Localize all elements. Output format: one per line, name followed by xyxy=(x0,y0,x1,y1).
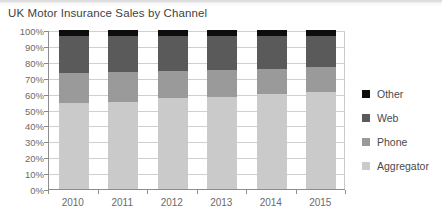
x-axis-label-2011: 2011 xyxy=(99,197,145,208)
y-axis-label: 10% xyxy=(0,169,44,180)
x-axis-tick xyxy=(98,190,99,194)
gridline xyxy=(49,95,345,96)
bar-segment-phone-2013[interactable] xyxy=(207,70,237,97)
legend-label: Web xyxy=(377,112,398,124)
bar-segment-other-2015[interactable] xyxy=(306,30,336,36)
legend-item-aggregator[interactable]: Aggregator xyxy=(362,154,429,178)
bar-2012[interactable] xyxy=(158,30,188,189)
legend-swatch-web-icon xyxy=(362,114,370,122)
legend-label: Other xyxy=(377,88,403,100)
bar-segment-aggregator-2013[interactable] xyxy=(207,97,237,189)
bar-2010[interactable] xyxy=(59,30,89,189)
bar-segment-other-2013[interactable] xyxy=(207,30,237,36)
bar-segment-other-2012[interactable] xyxy=(158,30,188,36)
x-axis-tick xyxy=(246,190,247,194)
bar-2014[interactable] xyxy=(257,30,287,189)
bar-segment-aggregator-2011[interactable] xyxy=(108,102,138,189)
y-axis-label: 100% xyxy=(0,26,44,37)
bar-segment-phone-2012[interactable] xyxy=(158,71,188,99)
gridline xyxy=(49,174,345,175)
y-axis-label: 60% xyxy=(0,89,44,100)
bar-segment-web-2012[interactable] xyxy=(158,36,188,70)
bar-segment-phone-2010[interactable] xyxy=(59,73,89,103)
gridline xyxy=(49,31,345,32)
legend-swatch-aggregator-icon xyxy=(362,162,370,170)
bar-2013[interactable] xyxy=(207,30,237,189)
legend-swatch-other-icon xyxy=(362,90,370,98)
x-axis-tick xyxy=(345,190,346,194)
y-axis-label: 50% xyxy=(0,105,44,116)
x-axis-tick xyxy=(147,190,148,194)
bar-segment-web-2011[interactable] xyxy=(108,36,138,72)
bar-segment-web-2010[interactable] xyxy=(59,36,89,73)
gridline xyxy=(49,47,345,48)
bar-segment-web-2013[interactable] xyxy=(207,36,237,69)
bar-segment-other-2011[interactable] xyxy=(108,30,138,36)
x-axis-label-2013: 2013 xyxy=(198,197,244,208)
legend-item-web[interactable]: Web xyxy=(362,106,429,130)
legend-item-phone[interactable]: Phone xyxy=(362,130,429,154)
bar-segment-aggregator-2010[interactable] xyxy=(59,103,89,189)
bar-segment-aggregator-2014[interactable] xyxy=(257,94,287,189)
gridline xyxy=(49,63,345,64)
legend-item-other[interactable]: Other xyxy=(362,82,429,106)
gridline xyxy=(49,79,345,80)
legend: OtherWebPhoneAggregator xyxy=(362,82,429,178)
y-axis-label: 80% xyxy=(0,57,44,68)
bar-segment-phone-2011[interactable] xyxy=(108,72,138,101)
y-axis-label: 40% xyxy=(0,121,44,132)
chart-screenshot: UK Motor Insurance Sales by Channel 100%… xyxy=(0,0,442,222)
y-axis-label: 70% xyxy=(0,73,44,84)
bar-segment-web-2015[interactable] xyxy=(306,36,336,67)
bar-2011[interactable] xyxy=(108,30,138,189)
x-axis-label-2015: 2015 xyxy=(297,197,343,208)
legend-label: Phone xyxy=(377,136,407,148)
y-axis-label: 20% xyxy=(0,153,44,164)
bar-segment-other-2014[interactable] xyxy=(257,30,287,36)
legend-label: Aggregator xyxy=(377,160,429,172)
y-axis-label: 30% xyxy=(0,137,44,148)
x-axis-label-2010: 2010 xyxy=(50,197,96,208)
y-axis-label: 90% xyxy=(0,41,44,52)
bar-segment-phone-2014[interactable] xyxy=(257,69,287,94)
gridline xyxy=(49,142,345,143)
bar-segment-phone-2015[interactable] xyxy=(306,67,336,92)
bar-segment-web-2014[interactable] xyxy=(257,36,287,69)
bar-segment-other-2010[interactable] xyxy=(59,30,89,36)
x-axis-label-2014: 2014 xyxy=(248,197,294,208)
legend-swatch-phone-icon xyxy=(362,138,370,146)
x-axis-tick xyxy=(296,190,297,194)
gridline xyxy=(49,111,345,112)
x-axis-label-2012: 2012 xyxy=(149,197,195,208)
gridline xyxy=(49,126,345,127)
bar-2015[interactable] xyxy=(306,30,336,189)
bar-segment-aggregator-2012[interactable] xyxy=(158,98,188,189)
plot-area xyxy=(48,31,345,190)
y-axis-label: 0% xyxy=(0,185,44,196)
bar-segment-aggregator-2015[interactable] xyxy=(306,92,336,189)
x-axis-tick xyxy=(197,190,198,194)
gridline xyxy=(49,158,345,159)
x-axis-tick xyxy=(48,190,49,194)
